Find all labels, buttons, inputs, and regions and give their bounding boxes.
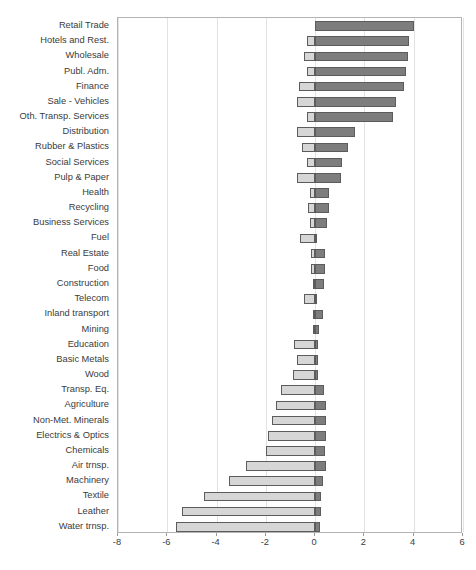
bar-segment-negative (176, 522, 315, 532)
x-tick-mark (363, 533, 364, 536)
x-tick-mark (413, 533, 414, 536)
horizontal-stacked-bar-chart: Retail TradeHotels and Rest.WholesalePub… (0, 0, 476, 570)
bar-row (118, 443, 461, 460)
category-label: Wood (85, 366, 109, 383)
category-label: Education (68, 336, 109, 353)
bar-segment-negative (300, 234, 315, 244)
bar-row (118, 185, 461, 202)
bar-segment-negative (182, 507, 315, 517)
bar-segment-negative (246, 461, 315, 471)
bar-segment-negative (302, 143, 316, 153)
bar-segment-positive (315, 67, 406, 77)
bar-segment-negative (272, 416, 315, 426)
bar-row (118, 367, 461, 384)
category-label: Oth. Transp. Services (20, 108, 109, 125)
category-label: Water trnsp. (59, 518, 109, 535)
bar-segment-positive (315, 112, 393, 122)
bar-row (118, 382, 461, 399)
bar-row (118, 397, 461, 414)
x-tick-mark (462, 533, 463, 536)
bar-segment-negative (297, 127, 315, 137)
bar-segment-negative (304, 52, 315, 62)
bar-segment-negative (294, 340, 315, 350)
bar-segment-positive (315, 310, 322, 320)
category-label: Leather (77, 503, 109, 520)
bar-segment-negative (276, 401, 315, 411)
bar-segment-negative (308, 203, 315, 213)
bar-segment-negative (307, 158, 316, 168)
bar-row (118, 246, 461, 263)
bar-row (118, 337, 461, 354)
category-label: Electrics & Optics (36, 427, 109, 444)
bar-segment-negative (297, 97, 315, 107)
bar-row (118, 215, 461, 232)
category-label: Sale - Vehicles (48, 93, 110, 110)
category-label: Transp. Eq. (61, 381, 109, 398)
category-label: Health (82, 184, 109, 201)
bar-row (118, 124, 461, 141)
category-label: Real Estate (61, 245, 109, 262)
bar-row (118, 261, 461, 278)
x-tick-label: -8 (97, 537, 137, 547)
bar-row (118, 94, 461, 111)
bar-segment-positive (315, 52, 407, 62)
bar-segment-negative (204, 492, 315, 502)
bar-segment-positive (315, 188, 329, 198)
x-tick-mark (166, 533, 167, 536)
bar-segment-negative (266, 446, 315, 456)
bar-segment-positive (315, 461, 326, 471)
bar-segment-positive (315, 370, 317, 380)
x-axis: -8-6-4-20246 (117, 533, 462, 563)
bar-segment-positive (315, 294, 317, 304)
bar-row (118, 79, 461, 96)
bar-segment-negative (281, 385, 316, 395)
bar-segment-negative (297, 355, 315, 365)
bar-row (118, 109, 461, 126)
x-tick-label: -6 (146, 537, 186, 547)
category-label: Retail Trade (59, 17, 109, 34)
bar-row (118, 306, 461, 323)
bar-segment-positive (315, 416, 326, 426)
bar-segment-positive (315, 340, 317, 350)
bar-row (118, 473, 461, 490)
bar-segment-positive (315, 385, 324, 395)
bar-segment-positive (315, 522, 320, 532)
bar-segment-positive (315, 218, 327, 228)
bar-segment-negative (293, 370, 315, 380)
bar-segment-positive (315, 21, 414, 31)
category-label: Fuel (91, 229, 109, 246)
bar-row (118, 488, 461, 505)
category-label: Distribution (62, 123, 109, 140)
bar-segment-positive (315, 97, 396, 107)
category-label: Hotels and Rest. (40, 32, 109, 49)
bar-segment-positive (315, 127, 354, 137)
bar-row (118, 48, 461, 65)
x-tick-mark (265, 533, 266, 536)
bar-segment-positive (315, 476, 322, 486)
category-label: Construction (57, 275, 109, 292)
category-label: Business Services (33, 214, 109, 231)
x-tick-label: 2 (343, 537, 383, 547)
bar-row (118, 33, 461, 50)
bar-segment-positive (315, 431, 326, 441)
x-tick-mark (117, 533, 118, 536)
category-label: Mining (82, 321, 109, 338)
bar-segment-positive (315, 492, 321, 502)
category-label: Recycling (69, 199, 109, 216)
bar-segment-positive (315, 355, 317, 365)
category-label: Non-Met. Minerals (33, 412, 109, 429)
plot-area (117, 17, 462, 533)
category-label: Chemicals (66, 442, 109, 459)
bar-segment-positive (315, 82, 404, 92)
bar-segment-positive (315, 203, 329, 213)
bar-segment-positive (315, 234, 317, 244)
bar-row (118, 504, 461, 521)
bar-segment-negative (229, 476, 315, 486)
x-tick-label: 6 (442, 537, 476, 547)
bar-row (118, 170, 461, 187)
category-label: Social Services (45, 154, 109, 171)
bar-row (118, 352, 461, 369)
bar-segment-positive (315, 279, 324, 289)
bar-segment-negative (268, 431, 315, 441)
bar-segment-negative (307, 67, 316, 77)
